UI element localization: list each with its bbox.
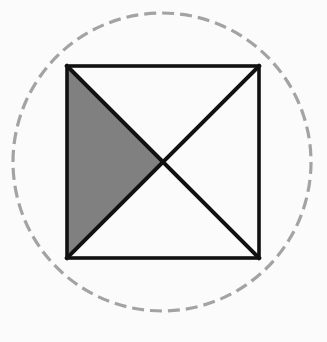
figure-canvas: Square with diagonals inscribed in a das… — [0, 0, 327, 342]
background — [0, 0, 327, 342]
geometric-figure: Square with diagonals inscribed in a das… — [0, 0, 327, 342]
